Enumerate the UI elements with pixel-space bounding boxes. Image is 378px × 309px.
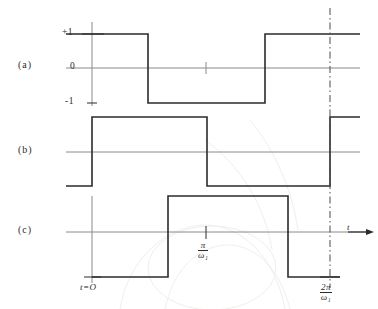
watermark-decoration [120, 120, 298, 309]
y-tick-label-zero: 0 [70, 62, 75, 72]
x-axis-full-period-label: 2π ω₁ [320, 283, 332, 303]
panel-label-a: (a) [18, 60, 32, 70]
full-period-denominator: ω₁ [320, 293, 332, 302]
waveform-c-trace [92, 196, 340, 277]
y-tick-label-plus-one: +1 [62, 28, 73, 38]
x-axis-origin-label: t=O [80, 283, 97, 292]
x-axis-half-period-label: π ω₁ [198, 241, 208, 261]
y-tick-label-minus-one: -1 [65, 97, 74, 107]
panel-label-b: (b) [18, 145, 33, 155]
time-axis-arrowhead-icon [366, 229, 374, 235]
panel-label-c: (c) [18, 225, 32, 235]
waveform-canvas [0, 0, 378, 309]
time-axis-label: t [347, 223, 350, 232]
waveform-figure: (a) (b) (c) +1 0 -1 t=O π ω₁ 2π ω₁ t [0, 0, 378, 309]
half-period-denominator: ω₁ [198, 251, 208, 260]
